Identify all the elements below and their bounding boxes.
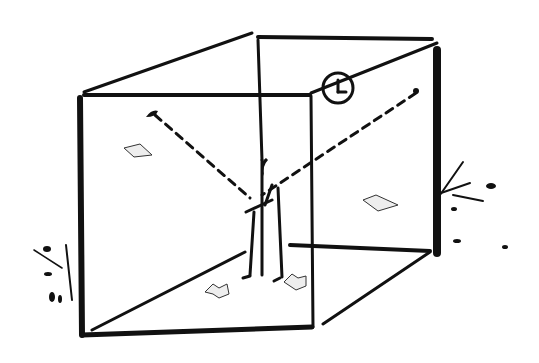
cube-room-illustration [0, 0, 539, 363]
dashed-cord [146, 88, 419, 198]
illustration-canvas [0, 0, 539, 363]
paper-right-wall [363, 195, 398, 211]
cube-frame [80, 33, 437, 335]
plant-left [34, 245, 72, 303]
book-left [205, 284, 229, 298]
plant-right [440, 162, 508, 249]
paper-left-wall [124, 144, 152, 157]
book-right [284, 274, 306, 290]
